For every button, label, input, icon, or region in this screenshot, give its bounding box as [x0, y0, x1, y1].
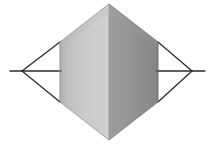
right-triangle-lower-edge	[158, 71, 192, 102]
left-triangle-upper-edge	[22, 42, 60, 71]
right-triangle-upper-edge	[158, 42, 192, 71]
geometric-figure	[0, 0, 213, 144]
figure-canvas	[0, 0, 213, 144]
left-triangle-lower-edge	[22, 71, 60, 102]
